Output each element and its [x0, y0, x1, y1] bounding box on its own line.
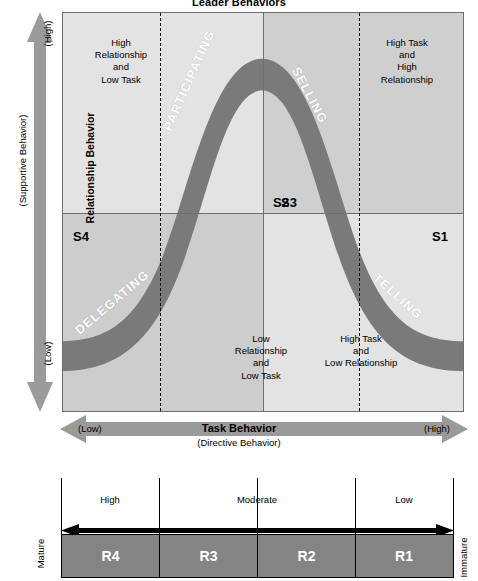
readiness-cell-r2: R2: [258, 535, 356, 577]
quadrant-s4-description: Low Relationship and Low Task: [213, 333, 309, 382]
quadrant-s3-description: High Relationship and Low Task: [75, 37, 167, 86]
x-axis-subtitle: (Directive Behavior): [0, 437, 478, 448]
readiness-band-high: High: [61, 494, 159, 505]
readiness-side-label-immature: Immature: [458, 528, 469, 581]
quadrant-s2-description: High Task and High Relationship: [359, 37, 455, 86]
y-axis-high-label: (High): [42, 9, 53, 59]
readiness-cell-r3: R3: [160, 535, 258, 577]
readiness-band-moderate: Moderate: [159, 494, 355, 505]
y-axis-outer-label: (Supportive Behavior): [17, 101, 28, 221]
readiness-band-low: Low: [355, 494, 453, 505]
readiness-side-label-mature: Mature: [35, 524, 46, 581]
readiness-bar: R4 R3 R2 R1: [61, 534, 454, 578]
readiness-cell-r1: R1: [356, 535, 452, 577]
quadrant-s1-description: High Task and Low Relationship: [313, 333, 409, 370]
y-axis-inner-label: Relationship Behavior: [84, 108, 96, 228]
quadrant-code-s1: S1: [432, 229, 448, 244]
readiness-cell-r4: R4: [62, 535, 160, 577]
x-axis-title: Task Behavior: [0, 422, 478, 434]
situational-leadership-diagram: Leader Behaviors High Relationship and L…: [0, 0, 478, 581]
chart-frame: High Relationship and Low Task High Task…: [62, 12, 464, 412]
page-title: Leader Behaviors: [0, 0, 478, 8]
y-axis-low-label: (Low): [42, 329, 53, 379]
quadrant-code-s2: S2: [273, 195, 289, 210]
x-axis-high-label: (High): [424, 423, 450, 434]
readiness-scale: High Moderate Low R4 R3 R2 R1 Mature Imm…: [0, 470, 478, 581]
quadrant-code-s4: S4: [73, 229, 89, 244]
